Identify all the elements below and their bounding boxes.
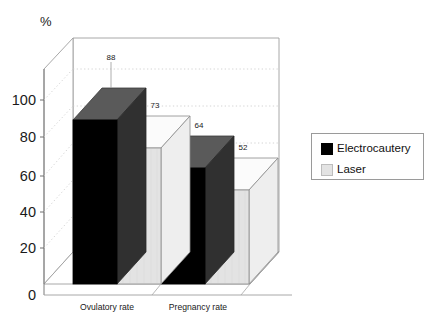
x-category-label-pregnancy: Pregnancy rate (169, 302, 228, 312)
legend: Electrocautery Laser (311, 133, 424, 180)
left-wall (44, 38, 73, 284)
bar-value-label: 64 (195, 121, 204, 130)
bar-side-face (117, 88, 146, 284)
y-tick-label-40: 40 (20, 204, 36, 220)
bar-front-face (73, 120, 117, 284)
bar-value-label: 52 (239, 143, 248, 152)
legend-item-electrocautery[interactable]: Electrocautery (321, 138, 423, 159)
bar-value-label: 88 (107, 53, 116, 62)
y-tick-label-0: 0 (28, 287, 36, 303)
x-tick-sep-1 (152, 284, 161, 295)
x-category-ticks (152, 284, 250, 295)
legend-label-electrocautery: Electrocautery (337, 143, 411, 155)
bar-value-label: 73 (151, 101, 160, 110)
y-tick-label-100: 100 (12, 92, 36, 108)
legend-item-laser[interactable]: Laser (321, 159, 423, 180)
y-axis-unit-label: % (40, 14, 52, 29)
x-category-label-ovulatory: Ovulatory rate (80, 302, 134, 312)
legend-label-laser: Laser (337, 164, 366, 176)
x-category-labels: Ovulatory rate Pregnancy rate (80, 302, 227, 312)
y-tick-label-20: 20 (20, 240, 36, 256)
chart-root: 100 80 60 40 20 0 % (0, 0, 438, 332)
y-tick-marks (40, 100, 44, 248)
y-tick-label-60: 60 (20, 168, 36, 184)
y-tick-label-80: 80 (20, 129, 36, 145)
legend-swatch-electrocautery (321, 143, 333, 155)
legend-swatch-laser (321, 164, 333, 176)
y-tick-labels: 100 80 60 40 20 0 (12, 92, 36, 303)
x-tick-sep-2 (241, 284, 250, 295)
